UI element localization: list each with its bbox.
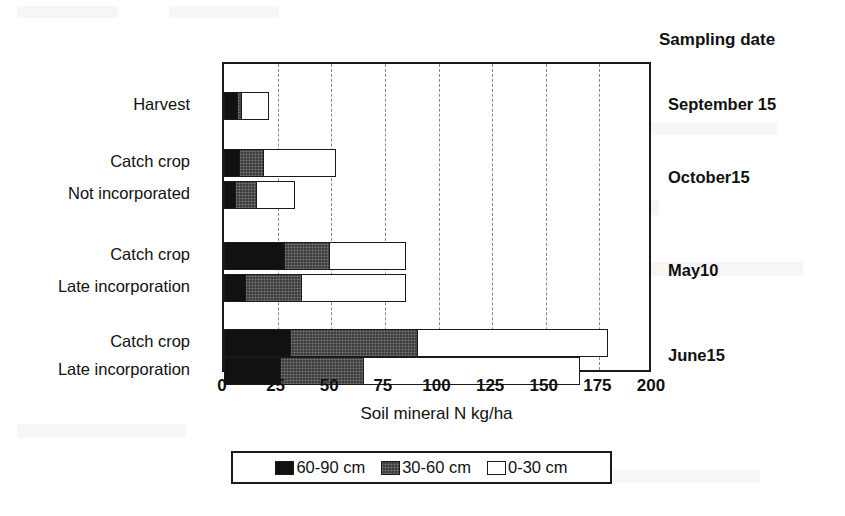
bar-stack bbox=[224, 242, 406, 270]
legend-item: 60-90 cm bbox=[275, 458, 365, 477]
bar-stack bbox=[224, 329, 608, 357]
category-label: Late incorporation bbox=[58, 277, 190, 296]
x-axis-tick-label: 50 bbox=[320, 376, 339, 396]
legend-swatch-60-90 bbox=[275, 461, 294, 475]
sampling-date-label: June15 bbox=[668, 346, 725, 365]
bar-segment bbox=[263, 149, 336, 177]
bar-segment bbox=[224, 242, 284, 270]
bar-segment bbox=[224, 92, 237, 120]
bars-layer bbox=[224, 64, 649, 370]
bar-stack bbox=[224, 274, 406, 302]
category-label: Late incorporation bbox=[58, 360, 190, 379]
x-axis-title: Soil mineral N kg/ha bbox=[222, 404, 651, 424]
legend-item: 30-60 cm bbox=[381, 458, 471, 477]
legend: 60-90 cm 30-60 cm 0-30 cm bbox=[231, 451, 612, 484]
bar-segment bbox=[301, 274, 406, 302]
legend-label: 0-30 cm bbox=[508, 458, 568, 477]
bar-segment bbox=[235, 181, 256, 209]
plot-area bbox=[222, 62, 651, 372]
stacked-bar-chart: Sampling date September 15October15May10… bbox=[0, 0, 845, 516]
legend-swatch-30-60 bbox=[381, 461, 400, 475]
category-label: Not incorporated bbox=[68, 184, 190, 203]
bar-stack bbox=[224, 92, 269, 120]
category-label: Catch crop bbox=[110, 245, 190, 264]
bar-segment bbox=[284, 242, 329, 270]
legend-item: 0-30 cm bbox=[487, 458, 568, 477]
bar-stack bbox=[224, 149, 336, 177]
x-axis-tick-label: 25 bbox=[266, 376, 285, 396]
category-label: Catch crop bbox=[110, 332, 190, 351]
bar-segment bbox=[224, 274, 245, 302]
bar-segment bbox=[290, 329, 417, 357]
bar-segment bbox=[245, 274, 301, 302]
bar-segment bbox=[417, 329, 608, 357]
bar-stack bbox=[224, 181, 295, 209]
x-axis-tick-label: 200 bbox=[637, 376, 665, 396]
category-label: Catch crop bbox=[110, 152, 190, 171]
legend-swatch-0-30 bbox=[487, 461, 506, 475]
bar-segment bbox=[241, 92, 269, 120]
bar-segment bbox=[239, 149, 263, 177]
bar-segment bbox=[224, 149, 239, 177]
x-axis-tick-label: 150 bbox=[530, 376, 558, 396]
category-label: Harvest bbox=[133, 95, 190, 114]
x-axis-tick-label: 175 bbox=[583, 376, 611, 396]
bar-segment bbox=[329, 242, 406, 270]
bar-segment bbox=[224, 329, 290, 357]
x-axis-tick-label: 75 bbox=[373, 376, 392, 396]
sampling-date-label: May10 bbox=[668, 261, 718, 280]
legend-label: 30-60 cm bbox=[402, 458, 471, 477]
x-axis-tick-label: 100 bbox=[422, 376, 450, 396]
bar-segment bbox=[224, 181, 235, 209]
x-axis-tick-label: 0 bbox=[217, 376, 226, 396]
sampling-date-heading: Sampling date bbox=[659, 30, 775, 50]
legend-label: 60-90 cm bbox=[296, 458, 365, 477]
x-axis-tick-label: 125 bbox=[476, 376, 504, 396]
sampling-date-label: September 15 bbox=[668, 95, 776, 114]
sampling-date-label: October15 bbox=[668, 168, 750, 187]
bar-segment bbox=[256, 181, 295, 209]
